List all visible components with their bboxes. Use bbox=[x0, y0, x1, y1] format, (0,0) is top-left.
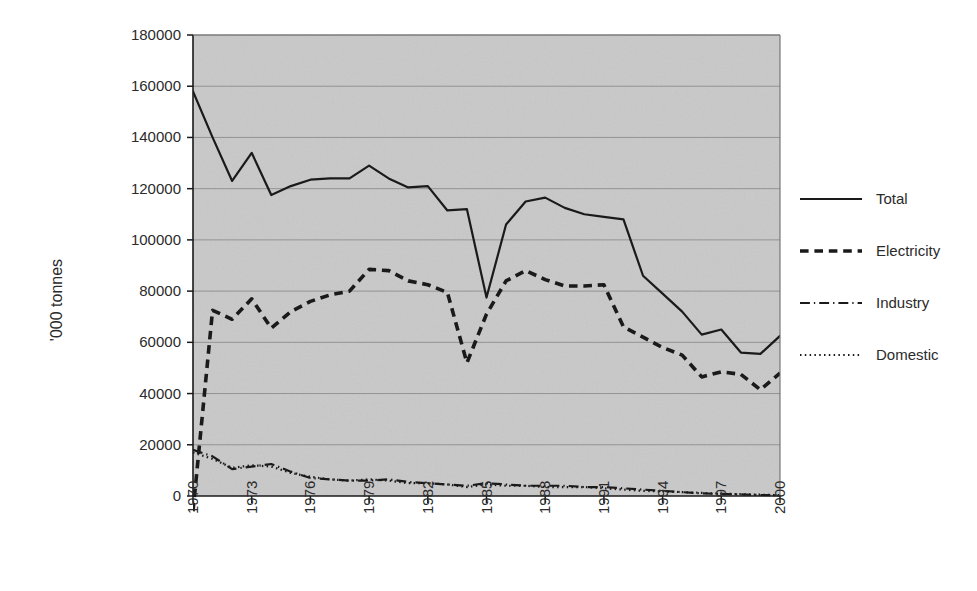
legend-label-total: Total bbox=[876, 190, 908, 207]
y-tick-label: 100000 bbox=[131, 231, 181, 248]
x-tick-label: 2000 bbox=[771, 481, 788, 514]
x-tick-label: 1982 bbox=[419, 481, 436, 514]
x-tick-label: 1991 bbox=[595, 481, 612, 514]
y-tick-label: 140000 bbox=[131, 128, 181, 145]
plot-scan-texture bbox=[193, 35, 780, 496]
y-tick-label: 180000 bbox=[131, 26, 181, 43]
x-tick-label: 1976 bbox=[301, 481, 318, 514]
y-tick-label: 0 bbox=[173, 487, 181, 504]
legend-label-domestic: Domestic bbox=[876, 346, 939, 363]
y-axis-title: '000 tonnes bbox=[48, 259, 65, 341]
y-tick-label: 20000 bbox=[139, 436, 181, 453]
x-tick-label: 1997 bbox=[712, 481, 729, 514]
x-tick-label: 1970 bbox=[184, 481, 201, 514]
y-tick-label: 80000 bbox=[139, 282, 181, 299]
plot-area bbox=[187, 35, 780, 511]
chart-figure: 0200004000060000800001000001200001400001… bbox=[0, 0, 977, 591]
x-tick-label: 1985 bbox=[478, 481, 495, 514]
x-tick-label: 1988 bbox=[536, 481, 553, 514]
y-tick-label: 160000 bbox=[131, 77, 181, 94]
y-tick-label: 40000 bbox=[139, 385, 181, 402]
x-tick-label: 1979 bbox=[360, 481, 377, 514]
legend-label-industry: Industry bbox=[876, 294, 930, 311]
line-chart: 0200004000060000800001000001200001400001… bbox=[0, 0, 977, 591]
x-tick-label: 1973 bbox=[243, 481, 260, 514]
y-tick-label: 60000 bbox=[139, 333, 181, 350]
y-tick-label: 120000 bbox=[131, 180, 181, 197]
legend-label-electricity: Electricity bbox=[876, 242, 941, 259]
x-tick-label: 1994 bbox=[654, 481, 671, 514]
